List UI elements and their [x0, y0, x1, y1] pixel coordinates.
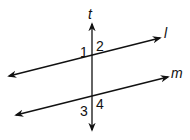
label-l: l — [164, 25, 168, 41]
diagram: t l m 1 2 3 4 — [0, 0, 190, 140]
label-m: m — [171, 65, 183, 81]
angle-2: 2 — [96, 38, 104, 54]
label-t: t — [88, 6, 93, 22]
angle-4: 4 — [96, 96, 104, 112]
angle-1: 1 — [80, 44, 88, 60]
angle-3: 3 — [80, 103, 88, 119]
